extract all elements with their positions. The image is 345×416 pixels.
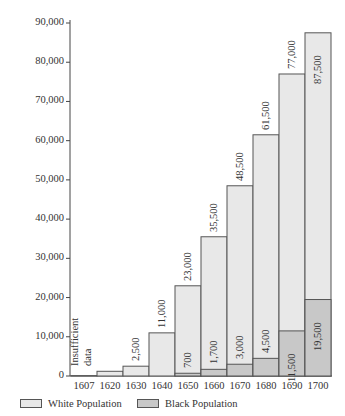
total-value-label: 48,500 [234, 152, 245, 181]
population-chart: Population 010,00020,00030,00040,00050,0… [0, 0, 345, 416]
black-value-label: 3,000 [234, 336, 245, 360]
bar-black-1680 [253, 358, 279, 376]
annotation-insufficient: Insufficient [69, 318, 80, 366]
y-tick-label: 70,000 [8, 94, 64, 105]
bar-black-1670 [227, 364, 253, 376]
y-tick-label: 40,000 [8, 212, 64, 223]
black-value-label: 1,700 [208, 341, 219, 365]
y-tick-label: 60,000 [8, 134, 64, 145]
total-value-label: 77,000 [286, 40, 297, 69]
y-tick-label: 30,000 [8, 251, 64, 262]
y-tick-label: 90,000 [8, 16, 64, 27]
legend-black-label: Black Population [165, 398, 238, 409]
y-tick-label: 80,000 [8, 55, 64, 66]
total-value-label: 23,000 [182, 252, 193, 281]
total-value-label: 61,500 [260, 101, 271, 130]
legend-black: Black Population [137, 398, 238, 409]
black-value-label: 700 [182, 353, 193, 369]
black-value-label: 19,500 [312, 322, 323, 351]
black-value-label: 4,500 [260, 330, 271, 354]
total-value-label: 87,500 [312, 55, 323, 84]
legend-white-label: White Population [48, 398, 122, 409]
y-tick-label: 50,000 [8, 173, 64, 184]
bar-black-1650 [175, 373, 201, 376]
bar-white-1630 [123, 366, 149, 376]
black-swatch [137, 399, 159, 408]
y-tick-label: 10,000 [8, 330, 64, 341]
bar-white-1640 [149, 333, 175, 376]
bar-black-1660 [201, 369, 227, 376]
y-tick-label: 0 [8, 369, 64, 380]
annotation-data: data [82, 349, 93, 367]
x-tick-label: 1700 [303, 380, 333, 391]
white-swatch [20, 399, 42, 408]
black-value-label: 11,500 [286, 353, 297, 382]
bar-white-1620 [97, 371, 123, 376]
total-value-label: 2,500 [130, 338, 141, 362]
y-tick-label: 20,000 [8, 291, 64, 302]
legend-white: White Population [20, 398, 122, 409]
total-value-label: 11,000 [156, 299, 167, 328]
total-value-label: 35,500 [208, 203, 219, 232]
